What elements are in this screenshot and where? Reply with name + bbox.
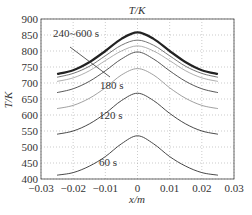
y-tick-label: 600 <box>22 109 39 121</box>
x-tick-label: 0.03 <box>224 182 244 194</box>
grid-lines <box>41 19 234 179</box>
y-tick-label: 450 <box>22 157 39 169</box>
y-tick-label: 550 <box>22 125 39 137</box>
x-tick-label: 0.02 <box>192 182 211 194</box>
y-tick-label: 850 <box>22 29 39 41</box>
y-tick-label: 800 <box>22 45 39 57</box>
y-tick-label: 900 <box>22 13 39 25</box>
y-tick-label: 650 <box>22 93 39 105</box>
x-tick-label: −0.02 <box>60 182 85 194</box>
x-tick-label: 0.01 <box>160 182 179 194</box>
y-axis-label: T/K <box>2 91 14 108</box>
y-tick-label: 750 <box>22 61 39 73</box>
x-tick-label: −0.03 <box>28 182 54 194</box>
annotation-120s: 120 s <box>99 109 123 121</box>
y-tick-label: 500 <box>22 141 39 153</box>
annotation-240-600s: 240~600 s <box>53 27 99 39</box>
y-tick-label: 700 <box>22 77 39 89</box>
x-axis-label: x/m <box>128 193 145 205</box>
chart-title: T/K <box>129 4 146 16</box>
annotation-180s: 180 s <box>100 79 124 91</box>
x-tick-label: −0.01 <box>93 182 118 194</box>
temperature-profile-chart: 400450500550600650700750800850900 −0.03−… <box>0 0 252 215</box>
y-axis-ticks: 400450500550600650700750800850900 <box>22 13 39 185</box>
annotation-60s: 60 s <box>99 156 117 168</box>
curve-120-s <box>57 93 218 134</box>
